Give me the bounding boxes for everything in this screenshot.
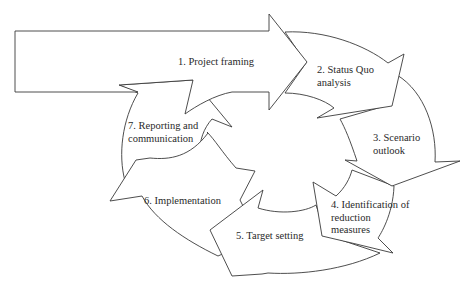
step-6-label: 6. Implementation <box>144 195 221 208</box>
step-1-label: 1. Project framing <box>178 56 254 69</box>
step-2-label: 2. Status Quo analysis <box>317 64 374 89</box>
step-5-label: 5. Target setting <box>236 230 303 243</box>
step-7-label: 7. Reporting and communication <box>128 120 198 145</box>
step-3-label: 3. Scenario outlook <box>373 132 420 157</box>
step-4-label: 4. Identification of reduction measures <box>331 199 409 237</box>
